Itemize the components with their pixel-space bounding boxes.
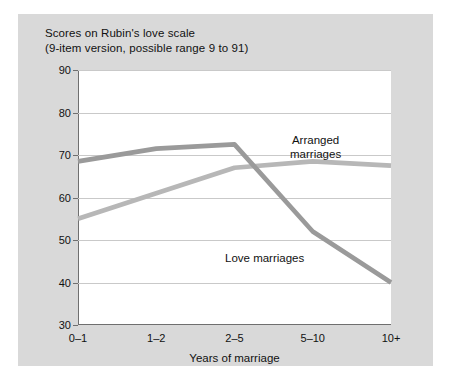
y-tick-label: 80 — [59, 107, 71, 119]
x-tick-label: 10+ — [382, 332, 401, 344]
y-tick-label: 60 — [59, 192, 71, 204]
x-axis-title: Years of marriage — [189, 352, 279, 364]
annotation-arranged-marriages: Arrangedmarriages — [290, 133, 341, 161]
y-tick-mark — [73, 325, 78, 326]
y-tick-label: 70 — [59, 149, 71, 161]
annotation-love-marriages: Love marriages — [225, 251, 304, 265]
series-line — [78, 161, 391, 218]
y-tick-label: 40 — [59, 277, 71, 289]
x-tick-label: 5–10 — [301, 332, 325, 344]
chart-title-line-2: (9-item version, possible range 9 to 91) — [45, 41, 385, 56]
y-tick-label: 90 — [59, 64, 71, 76]
chart-title: Scores on Rubin's love scale (9-item ver… — [45, 26, 385, 55]
x-tick-label: 0–1 — [69, 332, 87, 344]
annotation-arranged-line-1: Arranged — [292, 134, 339, 146]
chart-lines — [78, 70, 391, 325]
y-tick-label: 50 — [59, 234, 71, 246]
y-tick-label: 30 — [59, 319, 71, 331]
plot-wrapper: 30405060708090 0–11–22–55–1010+ Arranged… — [78, 70, 391, 325]
x-tick-label: 1–2 — [147, 332, 165, 344]
x-tick-label: 2–5 — [225, 332, 243, 344]
annotation-arranged-line-2: marriages — [290, 148, 341, 160]
chart-title-line-1: Scores on Rubin's love scale — [45, 26, 385, 41]
figure-panel: Scores on Rubin's love scale (9-item ver… — [18, 14, 433, 366]
